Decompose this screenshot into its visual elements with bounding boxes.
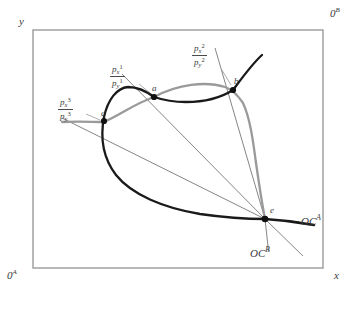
x-axis-label: x xyxy=(334,270,339,281)
price-ratio-2-denominator: py2 xyxy=(192,56,207,68)
p-superscript: 3 xyxy=(67,96,70,103)
point-label-c: c xyxy=(101,109,105,118)
price-ratio-label-1: px1 py1 xyxy=(110,63,125,89)
point-marker-b xyxy=(230,87,236,93)
origin-a-label: 0A xyxy=(7,269,17,281)
price-ratio-label-3: px3 py3 xyxy=(58,96,73,122)
edgeworth-box-figure: 0A 0B y x a b c e OCA OCB px3 py3 px1 py… xyxy=(0,0,362,309)
point-label-e: e xyxy=(270,206,274,215)
oc-a-text: OC xyxy=(301,215,316,227)
point-marker-a xyxy=(151,94,157,100)
origin-b-superscript: B xyxy=(336,6,340,14)
oc-b-text: OC xyxy=(250,247,265,259)
p-superscript: 3 xyxy=(67,110,70,117)
offer-curve-a-path xyxy=(102,55,314,225)
price-ratio-1-numerator: px1 xyxy=(110,63,125,75)
price-ratio-1-denominator: py1 xyxy=(110,77,125,89)
intersection-point-markers xyxy=(101,87,268,222)
p-superscript: 2 xyxy=(201,42,204,49)
price-ratio-3-numerator: px3 xyxy=(58,96,73,108)
price-ratio-3-denominator: py3 xyxy=(58,110,73,122)
price-ratio-2-numerator: px2 xyxy=(192,42,207,54)
point-marker-c xyxy=(101,118,107,124)
point-label-a: a xyxy=(152,84,157,93)
price-ratio-rays xyxy=(62,48,303,256)
oc-a-superscript: A xyxy=(316,213,321,222)
oc-b-superscript: B xyxy=(265,245,270,254)
point-marker-e xyxy=(262,216,269,223)
offer-curve-b-path xyxy=(62,84,265,219)
origin-b-label: 0B xyxy=(330,7,340,19)
edgeworth-box-frame xyxy=(33,30,323,268)
leader-line-ratio-3 xyxy=(86,114,100,120)
y-axis-label: y xyxy=(19,16,24,27)
offer-curve-a-label: OCA xyxy=(301,214,321,227)
p-superscript: 1 xyxy=(119,63,122,70)
diagram-canvas xyxy=(0,0,362,309)
point-label-b: b xyxy=(234,77,239,86)
ray-oc-a-extension xyxy=(265,219,303,256)
p-superscript: 2 xyxy=(201,56,204,63)
offer-curve-b-label: OCB xyxy=(250,246,270,259)
p-superscript: 1 xyxy=(119,77,122,84)
price-ratio-label-2: px2 py2 xyxy=(192,42,207,68)
origin-a-superscript: A xyxy=(13,268,17,276)
